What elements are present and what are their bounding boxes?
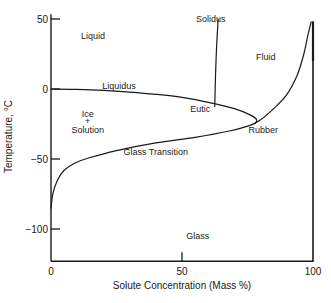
y-axis-label: Temperature, °C <box>3 100 14 173</box>
annotation-liquid: Liquid <box>81 31 105 41</box>
solidus-curve <box>215 19 218 107</box>
annotation-solidus: Solidus <box>196 14 226 24</box>
y-tick-label: 50 <box>37 14 49 25</box>
y-tick-label: 0 <box>42 84 48 95</box>
annotation-liquidus: Liquidus <box>102 81 136 91</box>
x-tick-label: 100 <box>305 266 322 277</box>
annotation-glass: Glass <box>186 231 210 241</box>
annotation-fluid: Fluid <box>256 52 276 62</box>
annotation-rubber: Rubber <box>248 125 278 135</box>
x-tick-label: 0 <box>48 266 54 277</box>
annotation-eutic: Eutic <box>190 104 211 114</box>
axes: 500−50−100050100 <box>25 14 321 278</box>
y-tick-label: −100 <box>25 224 48 235</box>
annotation-solution: Solution <box>71 125 104 135</box>
annotations: LiquidSolidusFluidLiquidusEuticIce+Solut… <box>71 14 278 241</box>
annotation-glass-transition: Glass Transition <box>124 147 189 157</box>
phase-diagram: 500−50−100050100 LiquidSolidusFluidLiqui… <box>0 0 331 303</box>
x-tick-label: 50 <box>176 266 188 277</box>
x-axis-label: Solute Concentration (Mass %) <box>113 280 251 291</box>
y-tick-label: −50 <box>31 154 48 165</box>
